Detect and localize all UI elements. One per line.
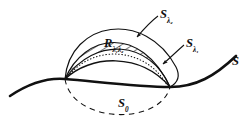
leader-s-lambda-2 [137, 16, 158, 37]
label-s-zero-base: S [118, 96, 125, 110]
label-s-lambda-1-base: S [186, 36, 193, 50]
label-s-curve: S [232, 55, 239, 71]
label-s-zero-sub: 0 [125, 106, 128, 114]
label-r-region-sub: λ₁λ₂ [112, 46, 123, 54]
label-s-lambda-2-sub: λ₂ [167, 17, 172, 25]
label-s-lambda-2-base: S [160, 7, 167, 21]
label-s-curve-base: S [232, 54, 239, 68]
label-s-zero: S0 [118, 97, 128, 113]
label-r-region: Rλ₁λ₂ [104, 37, 123, 53]
leader-s-lambda-1 [163, 45, 184, 64]
geometry-figure: Sλ₂ Sλ₁ Rλ₁λ₂ S0 S [0, 0, 250, 126]
label-s-lambda-2: Sλ₂ [160, 8, 172, 24]
label-s-lambda-1-sub: λ₁ [193, 46, 198, 54]
label-s-lambda-1: Sλ₁ [186, 37, 198, 53]
